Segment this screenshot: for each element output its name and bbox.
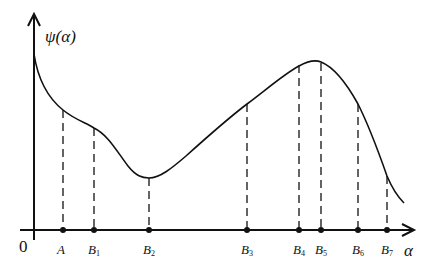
y-axis-label: ψ(α) [45, 28, 76, 45]
tick-label-b7: B7 [381, 243, 393, 258]
point-dot-a [60, 227, 66, 233]
tick-label-b2: B2 [143, 243, 155, 258]
tick-label-b3: B3 [241, 243, 253, 258]
point-dot-b3 [244, 227, 250, 233]
x-axis-label: α [404, 242, 413, 259]
dashed-guides [63, 63, 387, 230]
tick-label-a: A [57, 243, 65, 256]
point-dot-b7 [384, 227, 390, 233]
tick-label-b4: B4 [293, 243, 305, 258]
point-dot-b4 [296, 227, 302, 233]
tick-label-b5: B5 [315, 243, 327, 258]
psi-curve [34, 54, 404, 203]
point-dot-b6 [355, 227, 361, 233]
point-dot-b5 [318, 227, 324, 233]
tick-label-b6: B6 [352, 243, 364, 258]
tick-label-b1: B1 [88, 243, 100, 258]
point-dot-b1 [91, 227, 97, 233]
point-dot-b2 [146, 227, 152, 233]
origin-label: 0 [19, 238, 28, 255]
